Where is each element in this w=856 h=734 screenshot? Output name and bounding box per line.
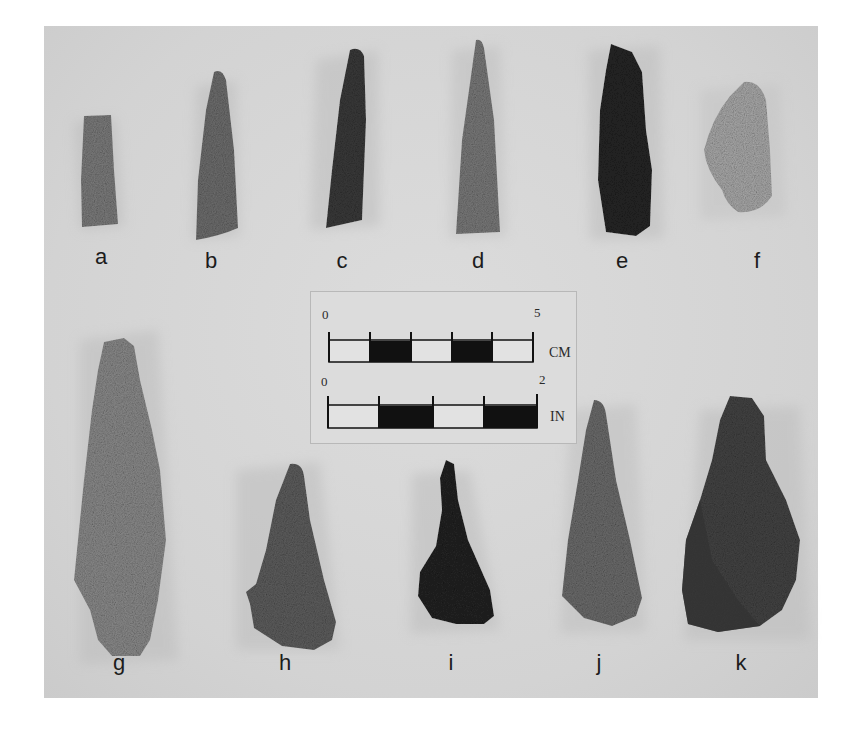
artifact-label-d: d bbox=[463, 250, 493, 272]
artifact-a bbox=[74, 115, 124, 230]
artifact-c bbox=[310, 49, 380, 230]
in-scale-start: 0 bbox=[321, 375, 328, 388]
cm-scale-bar bbox=[311, 292, 578, 445]
artifact-label-f: f bbox=[742, 250, 772, 272]
scale-bar-card: 0 5 CM 0 2 IN bbox=[310, 291, 577, 444]
cm-unit-label: CM bbox=[549, 346, 571, 360]
artifact-label-g: g bbox=[104, 652, 134, 674]
artifact-h bbox=[236, 462, 340, 650]
artifact-b bbox=[192, 71, 240, 240]
artifact-e bbox=[588, 44, 664, 240]
artifact-label-b: b bbox=[196, 250, 226, 272]
artifact-i bbox=[410, 460, 500, 634]
artifact-label-a: a bbox=[86, 246, 116, 268]
in-unit-label: IN bbox=[550, 410, 565, 424]
in-scale-end: 2 bbox=[539, 373, 546, 386]
artifact-label-e: e bbox=[607, 250, 637, 272]
artifact-f bbox=[700, 82, 786, 220]
artifact-label-k: k bbox=[726, 652, 756, 674]
artifact-label-i: i bbox=[436, 652, 466, 674]
artifact-label-j: j bbox=[584, 652, 614, 674]
artifact-k bbox=[682, 396, 810, 640]
artifact-label-c: c bbox=[327, 250, 357, 272]
artifact-d bbox=[450, 40, 506, 238]
artifact-g bbox=[74, 330, 178, 664]
artifact-label-h: h bbox=[270, 652, 300, 674]
